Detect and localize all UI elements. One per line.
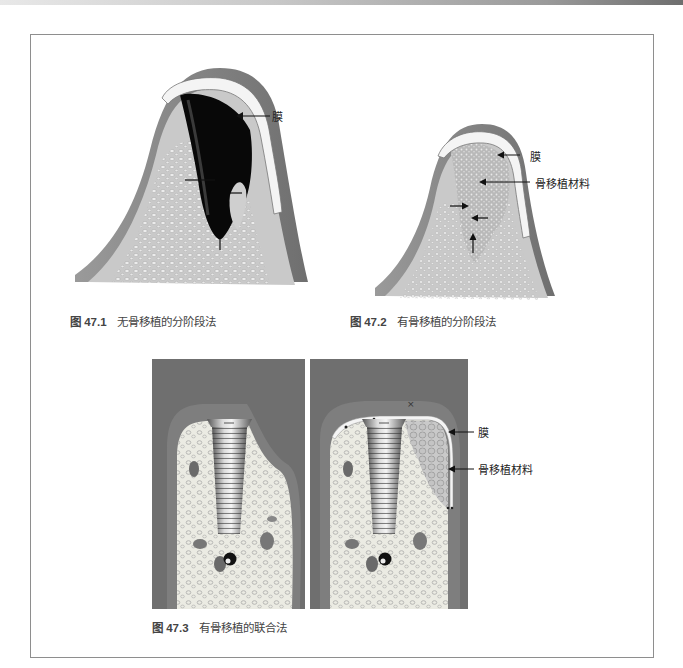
caption-number: 图 47.3 — [152, 622, 189, 634]
label-graft-material: 骨移植材料 — [478, 461, 533, 477]
caption-text: 有骨移植的分阶段法 — [397, 315, 496, 329]
caption-47-2: 图 47.2有骨移植的分阶段法 — [350, 313, 496, 329]
caption-text: 有骨移植的联合法 — [199, 621, 287, 635]
ridge-defect-illustration — [70, 60, 310, 305]
label-graft-material: 骨移植材料 — [535, 175, 590, 191]
page-top-gradient — [0, 0, 683, 5]
figure-47-2: 膜 骨移植材料 — [370, 118, 640, 308]
figure-47-3-right-panel: × — [310, 359, 468, 609]
label-membrane: 膜 — [530, 148, 541, 164]
ridge-graft-illustration — [370, 118, 560, 308]
figure-47-3-left-panel — [152, 359, 305, 609]
caption-47-3: 图 47.3有骨移植的联合法 — [152, 619, 287, 635]
label-membrane: 膜 — [478, 424, 489, 440]
figure-47-3-annotations: 膜 骨移植材料 — [440, 420, 560, 480]
caption-number: 图 47.2 — [350, 316, 387, 328]
caption-47-1: 图 47.1无骨移植的分阶段法 — [70, 313, 216, 329]
caption-number: 图 47.1 — [70, 316, 107, 328]
svg-text:×: × — [407, 399, 415, 409]
label-membrane: 膜 — [272, 108, 283, 124]
figure-47-1: 膜 — [70, 60, 310, 305]
caption-text: 无骨移植的分阶段法 — [117, 315, 216, 329]
